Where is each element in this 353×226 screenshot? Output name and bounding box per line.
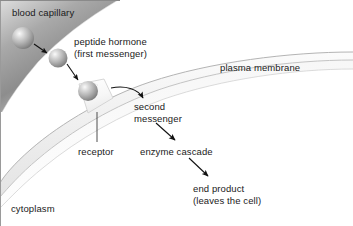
label-cytoplasm: cytoplasm bbox=[11, 203, 55, 215]
label-enzyme-cascade-text: enzyme cascade bbox=[140, 146, 213, 157]
label-second-messenger-line2: messenger bbox=[134, 113, 182, 125]
label-cytoplasm-text: cytoplasm bbox=[11, 203, 55, 214]
label-end-product-line1: end product bbox=[193, 183, 261, 195]
label-blood-capillary-text: blood capillary bbox=[12, 7, 74, 18]
arrow-sphere2-to-sphere3 bbox=[67, 64, 78, 80]
label-second-messenger: second messenger bbox=[134, 101, 182, 124]
label-receptor-text: receptor bbox=[78, 146, 114, 157]
hormone-sphere-1 bbox=[12, 27, 34, 49]
label-enzyme-cascade: enzyme cascade bbox=[140, 146, 213, 158]
label-second-messenger-line1: second bbox=[134, 101, 182, 113]
label-plasma-membrane: plasma membrane bbox=[220, 62, 300, 74]
arrow-second-messenger-to-enzyme-cascade bbox=[156, 123, 175, 140]
label-peptide-hormone-line1: peptide hormone bbox=[74, 36, 147, 48]
arrow-enzyme-cascade-to-end-product bbox=[189, 158, 208, 176]
label-blood-capillary: blood capillary bbox=[12, 7, 74, 19]
label-end-product-line2: (leaves the cell) bbox=[193, 195, 261, 207]
label-peptide-hormone: peptide hormone (first messenger) bbox=[74, 36, 147, 59]
hormone-sphere-3 bbox=[78, 81, 98, 101]
hormone-sphere-2 bbox=[49, 49, 68, 68]
signal-transduction-diagram: blood capillary peptide hormone (first m… bbox=[0, 0, 353, 226]
label-plasma-membrane-text: plasma membrane bbox=[220, 62, 300, 73]
plasma-membrane-band bbox=[0, 52, 353, 208]
label-end-product: end product (leaves the cell) bbox=[193, 183, 261, 206]
label-peptide-hormone-line2: (first messenger) bbox=[74, 48, 147, 60]
label-receptor: receptor bbox=[78, 146, 114, 158]
